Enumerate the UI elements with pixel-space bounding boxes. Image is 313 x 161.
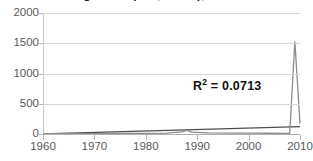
y-tick-label: 500 [3, 98, 39, 110]
x-tick-label: 1980 [125, 141, 167, 153]
chart-container: Average Grant (U.S., Health), 1960-2010 … [0, 0, 313, 161]
y-tick-label: 0 [3, 128, 39, 140]
x-tick-label: 1960 [22, 141, 64, 153]
r-squared-annotation: R2 = 0.0713 [193, 79, 261, 93]
gridline [43, 13, 300, 14]
y-tick-label: 1500 [3, 37, 39, 49]
gridline [43, 74, 300, 75]
plot-area [43, 13, 300, 134]
gridline [43, 104, 300, 105]
x-tick-label: 2010 [279, 141, 313, 153]
chart-title: Average Grant (U.S., Health), 1960-2010 [0, 0, 313, 1]
y-axis-labels: 0500100015002000 [0, 13, 39, 134]
r-squared-prefix: R [193, 79, 202, 93]
r-squared-suffix: = 0.0713 [207, 79, 261, 93]
x-tick-label: 1970 [73, 141, 115, 153]
y-tick-label: 2000 [3, 7, 39, 19]
gridline [43, 43, 300, 44]
x-tick-label: 2000 [228, 141, 270, 153]
x-axis-labels: 196019701980199020002010 [43, 141, 300, 159]
y-tick-label: 1000 [3, 68, 39, 80]
x-tick-label: 1990 [176, 141, 218, 153]
